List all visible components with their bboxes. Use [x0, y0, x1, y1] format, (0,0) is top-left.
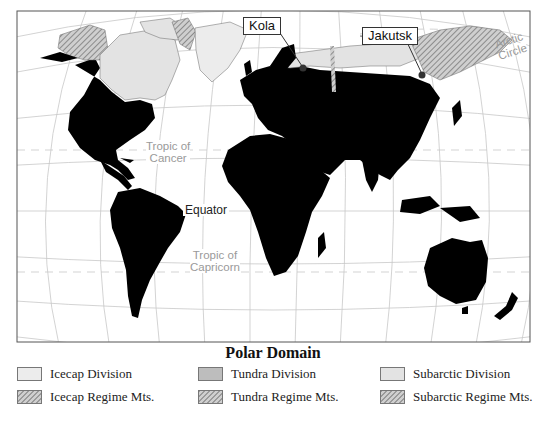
tundra-swatch [198, 367, 223, 381]
callout-jakutsk: Jakutsk [362, 27, 418, 45]
kola-dot [300, 65, 307, 72]
world-map: Kola Jakutsk Arctic Circle Tropic of Can… [0, 0, 546, 350]
icecap-swatch [17, 367, 42, 381]
legend-item-subarctic-division: Subarctic Division [380, 366, 510, 382]
tropic-of-cancer-label: Tropic of Cancer [146, 140, 190, 164]
legend-item-icecap-regime-mts: Icecap Regime Mts. [17, 389, 154, 405]
subarctic-swatch [380, 367, 405, 381]
jakutsk-dot [419, 72, 426, 79]
equator-label: Equator [183, 204, 229, 216]
callout-kola: Kola [243, 17, 281, 35]
subarctic-hatch-swatch [380, 390, 405, 404]
icecap-hatch-swatch [17, 390, 42, 404]
legend-item-tundra-regime-mts: Tundra Regime Mts. [198, 389, 339, 405]
legend-item-icecap-division: Icecap Division [17, 366, 132, 382]
legend-title: Polar Domain [0, 344, 546, 362]
legend-item-subarctic-regime-mts: Subarctic Regime Mts. [380, 389, 533, 405]
tropic-of-capricorn-label: Tropic of Capricorn [190, 249, 240, 273]
tundra-hatch-swatch [198, 390, 223, 404]
legend-item-tundra-division: Tundra Division [198, 366, 316, 382]
map-canvas [0, 0, 546, 350]
